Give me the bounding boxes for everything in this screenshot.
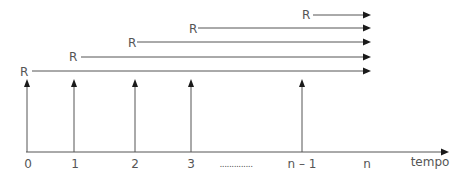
period-labels: 0 1 2 3 .............. n – 1 n tempo (24, 155, 449, 171)
right-arrowhead-icon (363, 25, 371, 32)
up-arrowhead-icon (188, 79, 194, 87)
period-label-0: 0 (24, 157, 32, 171)
period-label-n: n (363, 157, 371, 171)
vertical-arrow-2 (132, 79, 138, 152)
up-arrowhead-icon (299, 79, 305, 87)
period-label-1: 1 (71, 157, 79, 171)
period-label-n-minus-1: n – 1 (288, 157, 317, 171)
payment-label: R (128, 36, 136, 50)
axis-label: tempo (411, 155, 450, 169)
up-arrowhead-icon (24, 79, 30, 87)
payment-label: R (189, 22, 197, 36)
payment-label: R (302, 8, 310, 22)
period-label-3: 3 (187, 157, 195, 171)
ellipsis: .............. (219, 159, 252, 169)
cash-flow-diagram: R R R R R 0 1 2 3 .............. n – 1 n… (0, 0, 470, 178)
payment-arrow-2: R (128, 36, 371, 50)
payment-arrow-3: R (189, 22, 371, 36)
payment-arrow-0: R (20, 65, 371, 79)
period-label-2: 2 (131, 157, 139, 171)
right-arrowhead-icon (363, 39, 371, 46)
vertical-arrow-3 (188, 79, 194, 152)
payment-arrow-n-minus-1: R (302, 8, 371, 22)
right-arrowhead-icon (363, 68, 371, 75)
right-arrowhead-icon (363, 12, 371, 19)
vertical-arrow-n-minus-1 (299, 79, 305, 152)
right-arrowhead-icon (363, 54, 371, 61)
vertical-arrow-1 (71, 79, 77, 152)
payment-arrow-1: R (69, 50, 371, 64)
vertical-arrow-0 (24, 79, 30, 152)
payment-label: R (20, 65, 28, 79)
up-arrowhead-icon (132, 79, 138, 87)
up-arrowhead-icon (71, 79, 77, 87)
time-axis (26, 149, 449, 156)
payment-label: R (69, 50, 77, 64)
